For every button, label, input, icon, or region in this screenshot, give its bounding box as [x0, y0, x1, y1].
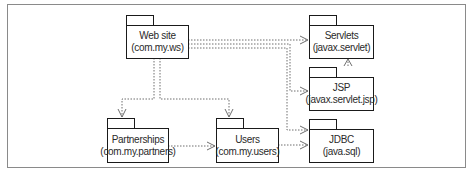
dependency-website-partnerships: [118, 58, 154, 117]
package-body: Servlets (javax.servlet): [309, 25, 374, 59]
dependency-users-jdbc: [278, 141, 308, 149]
dependency-website-users: [160, 58, 233, 117]
package-name: Partnerships: [112, 134, 165, 146]
dependency-website-jsp: [188, 44, 308, 95]
package-name: Web site: [139, 30, 175, 42]
package-body: JSP (javax.servlet.jsp): [309, 77, 374, 111]
package-namespace: (com.my.ws): [131, 42, 184, 54]
package-body: Partnerships (com.my.partners): [107, 128, 169, 163]
package-body: Users (com.my.users): [216, 128, 279, 163]
package-name: Servlets: [325, 30, 359, 42]
package-namespace: (com.my.users): [216, 146, 280, 158]
package-name: JDBC: [329, 134, 354, 146]
package-namespace: (javax.servlet.jsp): [305, 94, 377, 106]
package-namespace: (com.my.partners): [100, 146, 175, 158]
package-namespace: (java.sql): [323, 146, 361, 158]
package-name: Users: [235, 134, 260, 146]
dependency-website-servlets: [188, 36, 308, 44]
dependency-website-jdbc: [188, 48, 308, 134]
package-body: Web site (com.my.ws): [126, 25, 189, 59]
dependency-jsp-servlets: [344, 59, 352, 66]
package-namespace: (javax.servlet): [313, 42, 371, 54]
diagram-canvas: Web site (com.my.ws) Servlets (javax.ser…: [0, 0, 475, 177]
package-name: JSP: [333, 82, 350, 94]
package-body: JDBC (java.sql): [309, 129, 374, 163]
